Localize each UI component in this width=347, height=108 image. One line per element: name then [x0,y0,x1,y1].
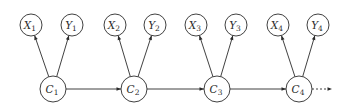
node-x4: X4 [267,14,289,36]
edges-layer [35,35,332,89]
edge-c3-to-x3 [199,35,213,76]
edge-c1-to-x1 [35,35,49,76]
node-y2: Y2 [144,14,166,36]
node-y3: Y3 [225,14,247,36]
node-c3: C3 [204,76,230,102]
edge-c4-to-x4 [281,35,295,76]
node-x1: X1 [20,14,42,36]
edge-c3-to-y3 [221,36,233,77]
node-c4: C4 [286,76,312,102]
node-c2: C2 [121,76,147,102]
edge-c2-to-x2 [118,36,130,77]
bayesian-network-diagram: X1Y1C1X2Y2C2X3Y3C3X4Y4C4 [0,0,347,108]
edge-c1-to-y1 [57,36,69,77]
node-x3: X3 [185,14,207,36]
node-y4: Y4 [307,14,329,36]
edge-c4-to-y4 [303,36,315,77]
node-c1: C1 [40,76,66,102]
edge-c2-to-y2 [138,35,152,76]
node-x2: X2 [104,14,126,36]
node-y1: Y1 [61,14,83,36]
